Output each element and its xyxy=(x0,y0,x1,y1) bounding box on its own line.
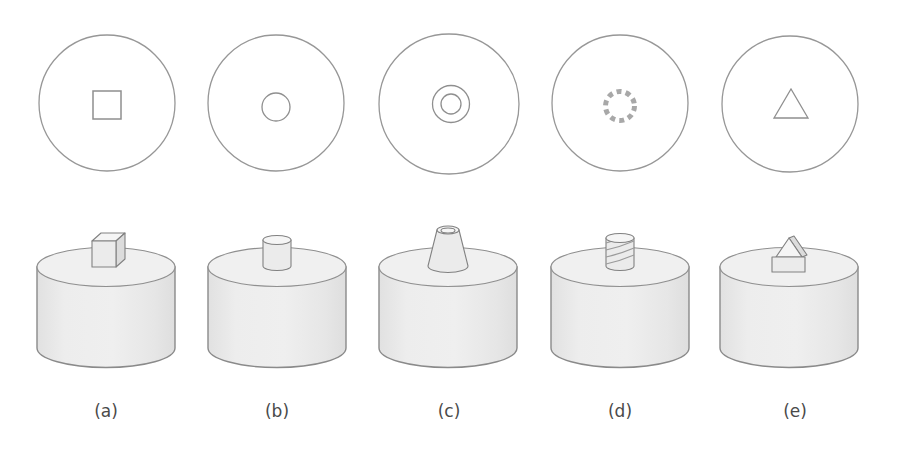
cylinder-boss-icon xyxy=(263,236,291,271)
cone-top-rim xyxy=(441,228,455,233)
side-view-cylinder-e xyxy=(720,236,858,368)
top-view-circle-icon xyxy=(39,35,175,171)
side-view-cylinder-c xyxy=(379,226,517,368)
label-c: (c) xyxy=(417,401,481,421)
figure-canvas: (a) (b) (c) (d) (e) xyxy=(0,0,899,449)
label-e: (e) xyxy=(763,401,827,421)
prism-base-face xyxy=(772,257,805,272)
cube-front-face xyxy=(92,241,116,267)
label-a: (a) xyxy=(74,401,138,421)
diagram-svg xyxy=(0,0,899,449)
cube-boss-icon xyxy=(92,233,125,267)
panel-e xyxy=(720,36,858,368)
panel-a xyxy=(37,35,175,368)
threaded-stud-boss-icon xyxy=(606,234,634,271)
top-view-circle-icon xyxy=(208,35,344,171)
panel-d xyxy=(551,35,689,368)
stud-top-face xyxy=(606,234,634,243)
panel-c xyxy=(379,34,519,368)
side-view-cylinder-d xyxy=(551,234,689,368)
label-d: (d) xyxy=(588,401,652,421)
tapered-cone-boss-icon xyxy=(428,226,468,273)
panel-b xyxy=(208,35,346,368)
top-view-circle-icon xyxy=(552,35,688,171)
top-view-circle-icon xyxy=(722,36,858,172)
cone-body xyxy=(428,230,468,273)
side-view-cylinder-b xyxy=(208,236,346,368)
side-view-cylinder-a xyxy=(37,233,175,368)
stud-top-face xyxy=(263,236,291,245)
top-view-circle-icon xyxy=(379,34,519,174)
label-b: (b) xyxy=(245,401,309,421)
